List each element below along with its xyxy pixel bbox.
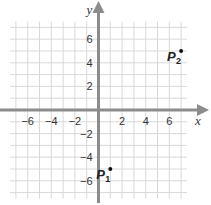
- point-p1: P1: [96, 167, 112, 184]
- x-tick-label: 6: [166, 115, 172, 127]
- x-tick-label: 4: [143, 115, 149, 127]
- point-p2: P2: [167, 49, 183, 66]
- y-tick-label: 2: [86, 80, 92, 92]
- x-tick-labels: −6−4−2246: [21, 115, 172, 127]
- y-tick-label: 4: [86, 57, 92, 69]
- x-tick-label: −4: [45, 115, 58, 127]
- y-axis-label: y: [85, 2, 93, 17]
- x-tick-label: 2: [119, 115, 125, 127]
- point-marker-icon: [108, 167, 112, 171]
- point-label: P: [167, 49, 176, 64]
- y-tick-label: −6: [80, 175, 93, 187]
- x-axis-label: x: [194, 113, 201, 128]
- point-marker-icon: [179, 49, 183, 53]
- y-tick-label: −4: [80, 151, 93, 163]
- y-tick-label: −2: [80, 128, 93, 140]
- coordinate-plane: x y −6−4−2246 −6−4−2246 P1P2: [0, 0, 211, 205]
- x-tick-label: −6: [21, 115, 34, 127]
- point-label: P: [96, 167, 105, 182]
- y-tick-label: 6: [86, 33, 92, 45]
- point-label-subscript: 1: [105, 174, 110, 184]
- y-axis-arrow-icon: [93, 1, 105, 13]
- point-label-subscript: 2: [176, 56, 181, 66]
- x-tick-label: −2: [69, 115, 82, 127]
